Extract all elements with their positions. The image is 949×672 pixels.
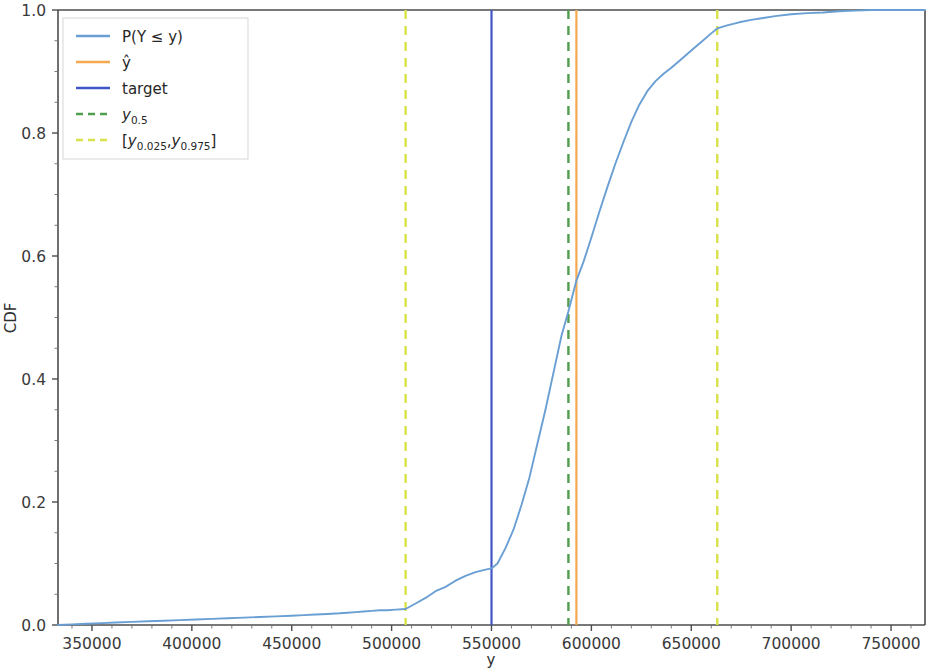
x-axis-title: y [487, 651, 496, 669]
y-tick-label: 0.6 [21, 248, 46, 266]
legend: P(Y ≤ y)ŷtargety0.5[y0.025,y0.975] [63, 18, 248, 159]
x-tick-label: 700000 [762, 635, 821, 653]
y-tick-label: 0.8 [21, 125, 46, 143]
legend-label-prediction-line: ŷ [122, 54, 131, 72]
y-tick-label: 0.4 [21, 371, 46, 389]
x-tick-label: 600000 [562, 635, 621, 653]
x-tick-label: 500000 [362, 635, 421, 653]
x-tick-label: 450000 [262, 635, 321, 653]
x-tick-label: 400000 [162, 635, 221, 653]
y-tick-label: 0.0 [21, 617, 46, 635]
legend-label-cdf-curve: P(Y ≤ y) [122, 28, 183, 46]
y-axis-title: CDF [2, 303, 20, 334]
x-tick-label: 750000 [861, 635, 920, 653]
y-tick-label: 1.0 [21, 2, 46, 20]
x-tick-label: 650000 [662, 635, 721, 653]
x-tick-label: 350000 [62, 635, 121, 653]
legend-label-target-line: target [122, 80, 168, 98]
cdf-figure: 3500004000004500005000005500006000006500… [0, 0, 949, 672]
y-axis-tick-labels: 0.00.20.40.60.81.0 [21, 2, 46, 635]
y-tick-label: 0.2 [21, 494, 46, 512]
chart-canvas: 3500004000004500005000005500006000006500… [0, 0, 949, 672]
